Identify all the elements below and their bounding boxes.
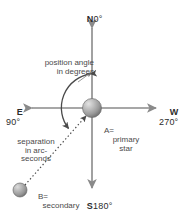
secondary-star-description: secondary star (43, 201, 80, 210)
cardinal-label-north: N0° (76, 5, 103, 34)
secondary-star-sphere (13, 183, 27, 197)
secondary-star-label: B=secondary star (32, 176, 90, 210)
cardinal-degrees-west: 270° (159, 118, 179, 128)
cardinal-letter-east: E (17, 107, 23, 117)
cardinal-degrees-south: 180° (93, 201, 112, 210)
cardinal-degrees-north: 0° (94, 14, 103, 24)
primary-star-label: A=primary star (103, 110, 149, 162)
cardinal-letter-north: N (87, 14, 94, 24)
primary-star-sphere (83, 99, 102, 118)
cardinal-degrees-east: 90° (6, 118, 23, 128)
cardinal-letter-west: W (170, 107, 179, 117)
star-position-angle-diagram: N0° S180° E90° W270° position angle in d… (0, 0, 182, 210)
primary-star-description: primary star (113, 135, 140, 153)
separation-label: separation in arc- seconds (5, 138, 67, 164)
position-angle-label: position angle in degrees (22, 59, 94, 76)
cardinal-label-west: W270° (159, 98, 179, 148)
